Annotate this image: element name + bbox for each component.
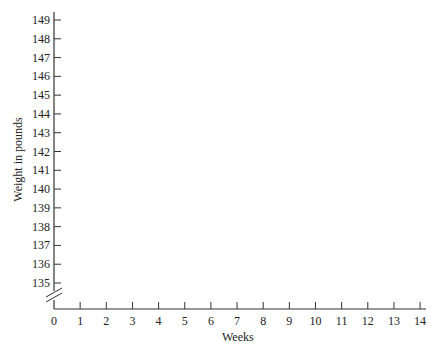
- x-tick-label: 12: [362, 314, 374, 328]
- x-tick-label: 14: [414, 314, 426, 328]
- x-tick-label: 11: [336, 314, 348, 328]
- x-tick-label: 4: [156, 314, 162, 328]
- x-tick-label: 2: [103, 314, 109, 328]
- y-tick-label: 145: [32, 88, 50, 102]
- y-tick-label: 140: [32, 182, 50, 196]
- y-tick-label: 136: [32, 257, 50, 271]
- x-tick-label: 8: [260, 314, 266, 328]
- y-tick-label: 142: [32, 145, 50, 159]
- y-tick-label: 149: [32, 13, 50, 27]
- y-tick-label: 135: [32, 276, 50, 290]
- x-tick-label: 6: [208, 314, 214, 328]
- y-tick-label: 144: [32, 107, 50, 121]
- y-axis-label: Weight in pounds: [11, 110, 26, 210]
- x-tick-label: 13: [388, 314, 400, 328]
- x-tick-label: 10: [310, 314, 322, 328]
- y-tick-label: 139: [32, 201, 50, 215]
- x-tick-label: 3: [129, 314, 135, 328]
- y-tick-label: 148: [32, 32, 50, 46]
- x-tick-label: 0: [51, 314, 57, 328]
- x-tick-label: 1: [77, 314, 83, 328]
- y-tick-label: 141: [32, 163, 50, 177]
- x-tick-label: 9: [286, 314, 292, 328]
- chart-canvas: 1351361371381391401411421431441451461471…: [0, 0, 438, 351]
- y-tick-label: 138: [32, 220, 50, 234]
- y-tick-label: 147: [32, 51, 50, 65]
- y-tick-label: 137: [32, 238, 50, 252]
- y-tick-label: 146: [32, 69, 50, 83]
- x-tick-label: 7: [234, 314, 240, 328]
- y-tick-label: 143: [32, 126, 50, 140]
- x-axis-label: Weeks: [222, 330, 254, 345]
- x-tick-label: 5: [182, 314, 188, 328]
